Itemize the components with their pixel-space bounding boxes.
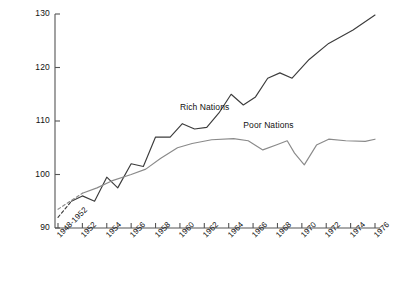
y-tick-label-90: 90 [24,222,50,232]
data-series-group [58,15,375,217]
y-tick-label-110: 110 [24,115,50,125]
y-tick-label-120: 120 [24,62,50,72]
series-annotation-poor-nations: Poor Nations [243,120,293,130]
y-axis-ticks [55,14,60,228]
chart-axes [55,14,380,228]
line-chart-plot [0,0,400,282]
series-annotation-rich-nations: Rich Nations [180,102,229,112]
series-line-poor-nations-dashed-leadin [58,193,82,209]
y-tick-label-130: 130 [24,8,50,18]
y-tick-label-100: 100 [24,169,50,179]
series-line-poor-nations [82,139,375,194]
chart-container: 90100110120130 1948-19521952195419561958… [0,0,400,282]
series-line-rich-nations-dashed-leadin [58,201,71,217]
